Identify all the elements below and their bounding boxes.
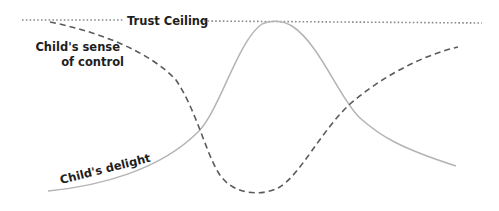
trust-ceiling-label: Trust Ceiling [127,14,208,28]
trust-ceiling-diagram: Trust Ceiling Child's sense of control C… [0,0,499,211]
control-label-line2: of control [61,55,124,69]
control-label: Child's sense of control [35,40,124,69]
trust-ceiling-line-right [200,21,482,23]
control-label-line1: Child's sense [35,40,120,54]
